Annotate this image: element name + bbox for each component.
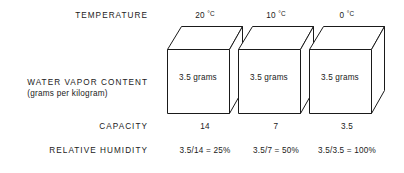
cube-outline-icon-0: [167, 26, 243, 114]
row-label-temperature: TEMPERATURE: [75, 11, 148, 20]
cube-label-1: 3.5 grams: [238, 73, 300, 82]
row-label-relative-humidity-text: RELATIVE HUMIDITY: [49, 146, 148, 155]
capacity-value-0: 14: [200, 122, 210, 131]
degree-unit-0: °C: [207, 10, 215, 17]
capacity-value-1: 7: [274, 122, 279, 131]
degree-unit-2: °C: [347, 10, 355, 17]
cube-label-0: 3.5 grams: [167, 73, 229, 82]
air-parcel-cube-0: 3.5 grams: [167, 26, 243, 114]
relative-humidity-value-2: 3.5/3.5 = 100%: [318, 146, 376, 155]
row-label-water-vapor-content: WATER VAPOR CONTENT (grams per kilogram): [27, 78, 148, 99]
temperature-value-2: 0 °C: [340, 11, 355, 20]
air-parcel-cube-2: 3.5 grams: [309, 26, 385, 114]
air-parcel-cube-1: 3.5 grams: [238, 26, 314, 114]
capacity-value-2: 3.5: [341, 122, 353, 131]
row-label-temperature-text: TEMPERATURE: [75, 11, 148, 20]
degree-unit-1: °C: [278, 10, 286, 17]
temperature-number-1: 10: [266, 11, 276, 20]
temperature-value-0: 20 °C: [195, 11, 215, 20]
temperature-value-1: 10 °C: [266, 11, 286, 20]
row-label-capacity-text: CAPACITY: [99, 122, 148, 131]
cube-outline-icon-1: [238, 26, 314, 114]
row-label-relative-humidity: RELATIVE HUMIDITY: [49, 146, 148, 155]
relative-humidity-value-1: 3.5/7 = 50%: [253, 146, 299, 155]
temperature-number-0: 20: [195, 11, 205, 20]
temperature-number-2: 0: [340, 11, 345, 20]
relative-humidity-value-0: 3.5/14 = 25%: [180, 146, 231, 155]
row-label-capacity: CAPACITY: [99, 122, 148, 131]
cube-outline-icon-2: [309, 26, 385, 114]
humidity-diagram: TEMPERATURE WATER VAPOR CONTENT (grams p…: [0, 0, 404, 173]
row-label-water-vapor-content-text: WATER VAPOR CONTENT: [27, 78, 148, 87]
row-label-water-vapor-content-sublabel: (grams per kilogram): [27, 89, 148, 98]
cube-label-2: 3.5 grams: [309, 73, 371, 82]
